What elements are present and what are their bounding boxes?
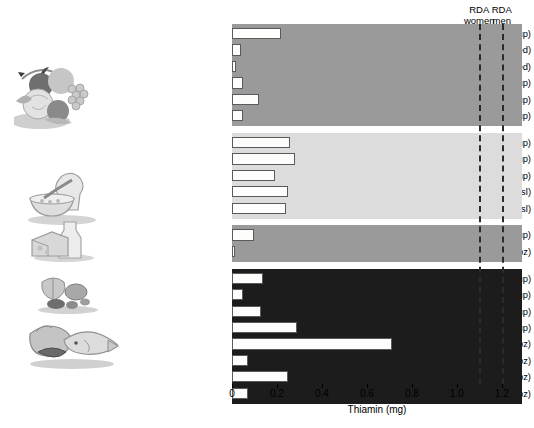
meat-fish-poultry-illustration	[22, 318, 122, 370]
x-tick-label: 1.0	[450, 388, 464, 399]
bar	[232, 170, 275, 181]
plot-area	[232, 24, 522, 384]
bar	[232, 306, 261, 317]
bar	[232, 28, 281, 39]
bar	[232, 153, 295, 164]
bar	[232, 137, 290, 148]
rda-header-men: RDAmen	[476, 4, 528, 26]
nuts-and-seeds-illustration	[32, 272, 104, 314]
x-tick-label: 0.2	[270, 388, 284, 399]
x-tick-label: 1.2	[495, 388, 509, 399]
thiamin-bar-chart: Orange juice, 250 mL (1 cup)Kiwi (2 med)…	[0, 0, 534, 428]
bar	[232, 246, 235, 257]
bar	[232, 44, 241, 55]
x-tick-label: 0.4	[315, 388, 329, 399]
fruits-and-vegetables-illustration	[14, 55, 106, 133]
bar	[232, 289, 243, 300]
x-tick-label: 0	[229, 388, 235, 399]
x-tick-label: 0.6	[360, 388, 374, 399]
bar	[232, 338, 392, 349]
bar	[232, 77, 243, 88]
bar	[232, 273, 263, 284]
bar	[232, 61, 236, 72]
bar	[232, 203, 286, 214]
rda-line-men	[502, 24, 504, 384]
x-tick-label: 0.8	[405, 388, 419, 399]
bar	[232, 355, 248, 366]
bar	[232, 229, 254, 240]
bar	[232, 371, 288, 382]
x-axis-title: Thiamin (mg)	[232, 404, 522, 415]
bar	[232, 110, 243, 121]
milk-and-cheese-illustration	[30, 218, 100, 262]
bar	[232, 94, 259, 105]
rda-line-women	[479, 24, 481, 384]
bar	[232, 186, 288, 197]
bar	[232, 322, 297, 333]
